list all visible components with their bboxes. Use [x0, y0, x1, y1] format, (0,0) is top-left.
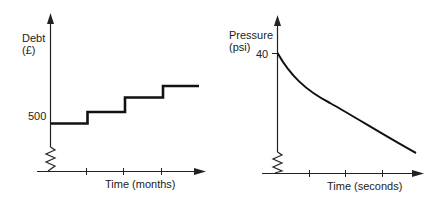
debt-step-line	[51, 86, 199, 124]
debt-chart	[37, 13, 206, 175]
pressure-decay-curve	[278, 53, 417, 153]
pressure-y-label-line1: Pressure	[229, 29, 273, 41]
debt-y-label-line2: (£)	[22, 44, 45, 56]
pressure-chart	[262, 15, 424, 177]
pressure-y-tick-label: 40	[256, 48, 268, 60]
debt-x-axis-arrow-icon	[194, 168, 206, 175]
pressure-x-axis-arrow-icon	[412, 170, 424, 177]
debt-axis-break-icon	[46, 147, 55, 171]
debt-y-label-line1: Debt	[22, 32, 45, 44]
charts-canvas	[0, 0, 447, 203]
pressure-y-axis-arrow-icon	[274, 15, 281, 26]
debt-y-axis-label: Debt (£)	[22, 32, 45, 56]
debt-x-axis-label: Time (months)	[105, 178, 176, 190]
debt-y-tick-label: 500	[28, 110, 46, 122]
debt-y-axis-arrow-icon	[47, 13, 54, 24]
pressure-x-axis-label: Time (seconds)	[327, 180, 402, 192]
pressure-axis-break-icon	[273, 152, 282, 173]
